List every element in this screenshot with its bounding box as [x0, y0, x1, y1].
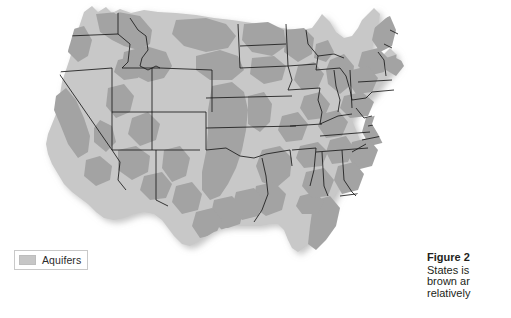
figure-caption: Figure 2 States is brown ar relatively	[427, 252, 511, 316]
legend-label-aquifers: Aquifers	[42, 254, 81, 266]
map-legend: Aquifers	[14, 250, 88, 270]
figure-caption-title: Figure 2	[427, 252, 511, 264]
figure-page: Aquifers Figure 2 States is brown ar rel…	[0, 0, 511, 318]
figure-caption-line-3: relatively	[427, 288, 511, 300]
aquifer-swatch-icon	[19, 255, 36, 265]
